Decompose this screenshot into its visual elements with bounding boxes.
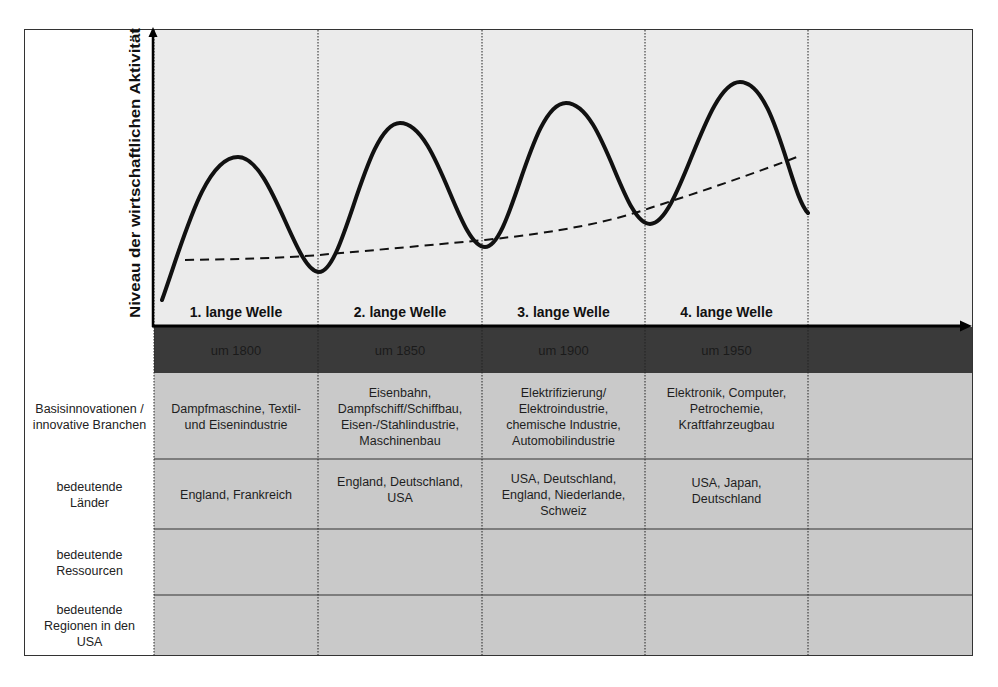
cell-countries-wave-3: USA, Deutschland, England, Niederlande, … xyxy=(482,460,645,529)
wave-label-3: 3. lange Welle xyxy=(482,300,645,324)
cell-innovation-future xyxy=(808,374,972,459)
long-waves-diagram: Niveau der wirtschaftlichen Aktivität 1.… xyxy=(0,0,998,687)
row-label-ressourcen: bedeutende Ressourcen xyxy=(26,530,153,595)
cell-countries-wave-1: England, Frankreich xyxy=(154,460,318,529)
cell-countries-wave-2: England, Deutschland, USA xyxy=(318,460,482,520)
cell-regions-future xyxy=(808,596,972,655)
period-1900: um 1900 xyxy=(482,327,645,373)
cell-regions-wave-2 xyxy=(318,596,482,655)
row-label-basisinnovationen: Basisinnovationen / innovative Branchen xyxy=(26,374,153,459)
cell-countries-wave-4: USA, Japan, Deutschland xyxy=(645,460,808,522)
wave-label-2: 2. lange Welle xyxy=(318,300,482,324)
cell-resources-wave-3 xyxy=(482,530,645,595)
wave-label-1: 1. lange Welle xyxy=(154,300,318,324)
cell-regions-wave-4 xyxy=(645,596,808,655)
cell-regions-wave-1 xyxy=(154,596,318,655)
cell-innovation-wave-1: Dampfmaschine, Textil- und Eisenindustri… xyxy=(154,374,318,459)
cell-resources-wave-4 xyxy=(645,530,808,595)
cell-innovation-wave-3: Elektrifizierung/ Elektroindustrie, chem… xyxy=(482,374,645,459)
period-1800: um 1800 xyxy=(154,327,318,373)
y-axis xyxy=(149,27,158,327)
long-wave-curve xyxy=(162,82,808,300)
row-label-laender: bedeutende Länder xyxy=(26,460,153,529)
cell-resources-wave-1 xyxy=(154,530,318,595)
row-label-regionen-usa: bedeutende Regionen in den USA xyxy=(26,596,153,656)
y-axis-label: Niveau der wirtschaftlichen Aktivität xyxy=(127,28,143,318)
wave-label-4: 4. lange Welle xyxy=(645,300,808,324)
cell-innovation-wave-4: Elektronik, Computer, Petrochemie, Kraft… xyxy=(645,374,808,444)
cell-innovation-wave-2: Eisenbahn, Dampfschiff/Schiffbau, Eisen-… xyxy=(318,374,482,459)
cell-resources-future xyxy=(808,530,972,595)
period-1950: um 1950 xyxy=(645,327,808,373)
cell-resources-wave-2 xyxy=(318,530,482,595)
cell-regions-wave-3 xyxy=(482,596,645,655)
period-1850: um 1850 xyxy=(318,327,482,373)
cell-countries-future xyxy=(808,460,972,529)
